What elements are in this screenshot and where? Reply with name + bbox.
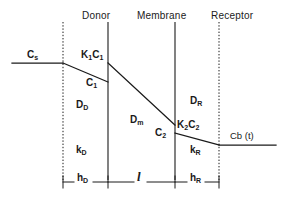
membrane-transport-diagram: Donor Membrane Receptor Cs K1C1 C1 K2C2 … <box>0 0 283 202</box>
diffusion-label-dm: Dm <box>130 114 143 125</box>
concentration-label-k2c2: K2C2 <box>177 119 199 130</box>
k1c1-subscript-1: 1 <box>88 54 92 61</box>
receptor-bulk-label-cbt: Cb (t) <box>230 130 254 141</box>
c2-subscript: 2 <box>162 132 166 139</box>
k2c2-subscript-1: 2 <box>184 124 188 131</box>
diagram-canvas <box>0 0 283 202</box>
transfer-label-kr: kR <box>190 144 201 155</box>
kr-symbol: k <box>190 144 196 155</box>
cs-subscript: s <box>34 54 38 61</box>
dimension-label-l: l <box>137 169 141 185</box>
concentration-label-c2: C2 <box>155 127 166 138</box>
k2c2-subscript-2: 2 <box>195 124 199 131</box>
kr-subscript: R <box>196 149 201 156</box>
diffusion-label-dd: DD <box>76 99 88 110</box>
kd-symbol: k <box>76 144 82 155</box>
dr-subscript: R <box>197 100 202 107</box>
hd-subscript: D <box>83 177 88 184</box>
c1-subscript: 1 <box>93 82 97 89</box>
kd-subscript: D <box>82 149 87 156</box>
region-label-membrane: Membrane <box>137 10 186 21</box>
k1c1-subscript-2: 1 <box>99 54 103 61</box>
diffusion-label-dr: DR <box>190 95 202 106</box>
dimension-label-hd: hD <box>77 172 88 183</box>
region-label-receptor: Receptor <box>211 10 253 21</box>
dd-subscript: D <box>83 104 88 111</box>
concentration-label-k1c1: K1C1 <box>81 49 103 60</box>
concentration-label-cs: Cs <box>27 49 38 60</box>
concentration-label-c1: C1 <box>86 77 97 88</box>
dm-subscript: m <box>137 119 143 126</box>
hr-subscript: R <box>196 177 201 184</box>
transfer-label-kd: kD <box>76 144 87 155</box>
region-label-donor: Donor <box>82 10 110 21</box>
dimension-label-hr: hR <box>190 172 201 183</box>
